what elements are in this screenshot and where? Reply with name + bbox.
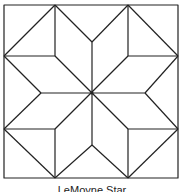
star-left-bottom-arm	[4, 93, 41, 129]
star-top-right-arm	[92, 5, 128, 42]
corner-top-left	[4, 5, 55, 56]
star-top-left-arm	[55, 5, 92, 42]
lemoyne-star-diagram	[0, 0, 184, 192]
corner-bottom-left	[4, 129, 55, 178]
star-bottom-right-arm	[92, 145, 128, 178]
star-right-bottom-arm	[145, 93, 178, 129]
star-right-top-arm	[145, 56, 178, 93]
star-bottom-left-arm	[55, 145, 92, 178]
center-point	[91, 92, 94, 95]
corner-bottom-right	[128, 129, 178, 178]
star-left-top-arm	[4, 56, 41, 93]
diagram-caption: LeMoyne Star	[0, 184, 184, 192]
corner-top-right	[128, 5, 178, 56]
